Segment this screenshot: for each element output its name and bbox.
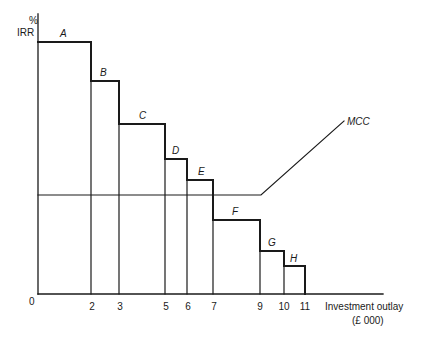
mcc-label: MCC [347,116,370,127]
x-tick-3: 3 [117,301,123,312]
bar-label-g: G [268,237,276,248]
bar-label-c: C [139,110,146,121]
bar-label-d: D [172,145,179,156]
x-tick-9: 9 [257,301,263,312]
x-tick-11: 11 [300,301,310,312]
mcc-line [38,121,344,195]
origin-label: 0 [29,296,35,307]
x-tick-10: 10 [278,301,289,312]
x-axis-unit: (£ 000) [352,315,384,326]
x-tick-7: 7 [211,301,217,312]
y-axis-label-irr: IRR [17,27,34,38]
x-tick-2: 2 [89,301,95,312]
y-axis-label-percent: % [29,15,38,26]
bar-label-e: E [198,166,205,177]
x-tick-6: 6 [185,301,191,312]
irr-mcc-chart [0,0,429,339]
bar-label-f: F [232,206,238,217]
bar-label-b: B [100,67,107,78]
x-tick-5: 5 [163,301,169,312]
irr-step-outline [38,42,305,294]
bar-label-h: H [290,253,297,264]
x-axis-title: Investment outlay [325,301,403,312]
bar-label-a: A [60,28,67,39]
